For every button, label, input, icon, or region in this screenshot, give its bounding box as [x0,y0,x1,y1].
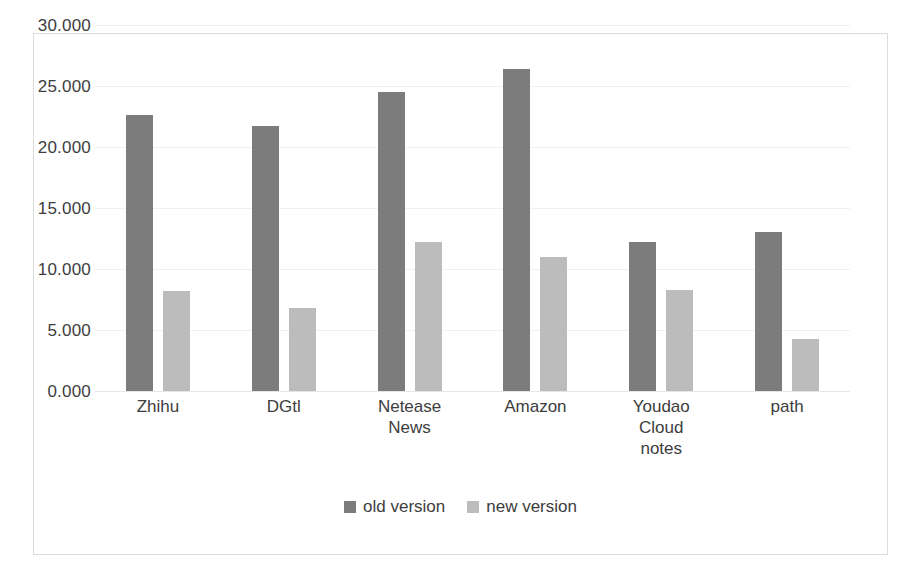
bar-groups [95,25,850,391]
legend-label: old version [363,498,445,515]
legend-item[interactable]: old version [344,498,445,515]
bar[interactable] [252,126,279,391]
y-tick-label: 30.000 [33,17,91,34]
legend-item[interactable]: new version [467,498,577,515]
bar-group [598,25,724,391]
bar[interactable] [503,69,530,391]
y-tick-label: 5.000 [33,322,91,339]
bar-group [472,25,598,391]
x-axis-label: Netease News [347,396,473,480]
x-axis: ZhihuDGtlNetease NewsAmazonYoudao Cloud … [95,396,850,480]
x-axis-label: Zhihu [95,396,221,480]
y-tick-label: 20.000 [33,139,91,156]
x-axis-label: path [724,396,850,480]
y-tick-label: 10.000 [33,261,91,278]
bar-group [95,25,221,391]
legend-swatch-icon [467,501,479,513]
bar[interactable] [666,290,693,391]
bar[interactable] [540,257,567,391]
bar[interactable] [415,242,442,391]
x-axis-label: Youdao Cloud notes [598,396,724,480]
bar[interactable] [629,242,656,391]
bar-group [347,25,473,391]
legend-swatch-icon [344,501,356,513]
x-axis-label: DGtl [221,396,347,480]
x-axis-label: Amazon [472,396,598,480]
y-tick-label: 15.000 [33,200,91,217]
bar[interactable] [126,115,153,391]
y-axis: 30.00025.00020.00015.00010.0005.0000.000 [33,25,91,391]
chart-legend: old versionnew version [33,498,888,515]
bar[interactable] [378,92,405,391]
bar[interactable] [289,308,316,391]
plot-area [95,25,850,391]
bar-group [221,25,347,391]
bar[interactable] [755,232,782,391]
y-tick-label: 0.000 [33,383,91,400]
legend-label: new version [486,498,577,515]
bar-group [724,25,850,391]
y-tick-label: 25.000 [33,78,91,95]
bar-chart: 30.00025.00020.00015.00010.0005.0000.000… [0,0,924,585]
bar[interactable] [163,291,190,391]
bar[interactable] [792,339,819,391]
